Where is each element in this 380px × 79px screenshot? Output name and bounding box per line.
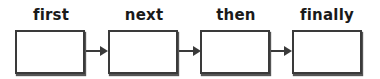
step-label-first: first [6,6,96,24]
step-label-next: next [99,6,189,24]
step-label-then: then [191,6,281,24]
step-box-finally [292,30,362,74]
arrow-icon [179,50,199,52]
step-box-first [15,30,85,74]
step-label-finally: finally [282,6,372,24]
step-box-next [108,30,178,74]
arrow-icon [271,50,290,52]
step-box-then [200,30,270,74]
arrow-icon [86,50,106,52]
